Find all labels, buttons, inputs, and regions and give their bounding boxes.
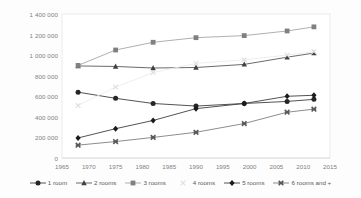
legend-marker-icon <box>175 179 191 187</box>
x-axis-tick-label: 1980 <box>136 163 150 170</box>
chart-legend: 1 room2 rooms3 rooms4 rooms5 rooms6 room… <box>0 176 361 190</box>
legend-item-4-rooms[interactable]: 4 rooms <box>175 179 215 187</box>
x-axis-tick-label: 2015 <box>323 163 337 170</box>
data-point-diamond <box>230 180 235 186</box>
x-axis-tick-label: 2005 <box>270 163 284 170</box>
x-axis-tick-label: 1965 <box>55 163 69 170</box>
data-point-circle <box>35 181 40 186</box>
legend-marker-icon <box>76 179 92 187</box>
x-axis-tick-label: 2000 <box>243 163 257 170</box>
legend-item-3-rooms[interactable]: 3 rooms <box>125 179 165 187</box>
x-axis-tick-label: 1990 <box>189 163 203 170</box>
legend-label: 6 rooms and + <box>291 179 331 187</box>
data-point-x-bold <box>279 181 284 186</box>
x-axis-tick-label: 2010 <box>296 163 310 170</box>
legend-item-6-rooms-and-[interactable]: 6 rooms and + <box>273 179 331 187</box>
legend-label: 5 rooms <box>242 179 264 187</box>
data-point-x <box>180 181 185 186</box>
x-axis-tick-label: 1985 <box>162 163 176 170</box>
legend-item-2-rooms[interactable]: 2 rooms <box>76 179 116 187</box>
legend-item-1-room[interactable]: 1 room <box>30 179 67 187</box>
legend-item-5-rooms[interactable]: 5 rooms <box>224 179 264 187</box>
x-axis: 1965197019751980198519901995200020052010… <box>0 0 361 198</box>
data-point-square <box>131 181 136 186</box>
x-axis-tick-label: 1995 <box>216 163 230 170</box>
line-chart: 0200 000400 000600 000800 0001 000 0001 … <box>0 0 361 198</box>
legend-marker-icon <box>30 179 46 187</box>
x-axis-tick-label: 1975 <box>109 163 123 170</box>
legend-marker-icon <box>273 179 289 187</box>
legend-label: 3 rooms <box>143 179 165 187</box>
legend-label: 1 room <box>48 179 67 187</box>
x-axis-tick-label: 1970 <box>82 163 96 170</box>
legend-marker-icon <box>125 179 141 187</box>
legend-label: 4 rooms <box>193 179 215 187</box>
legend-label: 2 rooms <box>94 179 116 187</box>
legend-marker-icon <box>224 179 240 187</box>
